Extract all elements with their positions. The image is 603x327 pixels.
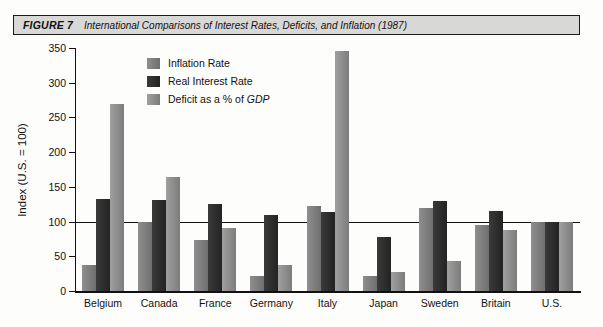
figure-label: FIGURE 7 [23,19,73,31]
y-tick-label: 250 [48,111,66,123]
figure-container: FIGURE 7 International Comparisons of In… [0,0,603,327]
bar [363,276,377,291]
bar-group [82,48,124,291]
y-tick-label: 50 [54,250,66,262]
legend-swatch-icon [147,58,160,69]
bar [377,237,391,291]
x-tick-label: Belgium [84,297,122,309]
bar [138,222,152,291]
bar [433,201,447,291]
bar [264,215,278,291]
bar [559,222,573,291]
bar [475,225,489,291]
legend-swatch-icon [147,94,160,105]
y-tick [69,256,75,257]
bar-group [531,48,573,291]
legend-item: Deficit as a % of GDP [147,91,270,107]
bar [250,276,264,291]
x-axis-line [75,291,581,293]
chart-legend: Inflation RateReal Interest RateDeficit … [147,55,270,109]
bar-group [307,48,349,291]
y-axis-title-text: Index (U.S. = 100) [16,123,28,217]
x-tick-label: France [199,297,232,309]
bar [110,104,124,291]
x-tick-label: Britain [481,297,511,309]
y-tick [69,48,75,49]
legend-item: Real Interest Rate [147,73,270,89]
bar [321,212,335,291]
bar [194,240,208,291]
legend-item: Inflation Rate [147,55,270,71]
x-tick-label: Japan [369,297,398,309]
bar [82,265,96,291]
bar [419,208,433,291]
y-axis-title: Index (U.S. = 100) [14,48,30,291]
figure-title-bar: FIGURE 7 International Comparisons of In… [13,15,580,35]
y-tick-label: 300 [48,77,66,89]
x-tick-label: Italy [318,297,337,309]
bar [503,230,517,291]
x-tick-label: Canada [141,297,178,309]
bar-group [475,48,517,291]
bar [278,265,292,291]
bar [166,177,180,291]
bar [489,211,503,291]
bar [391,272,405,291]
y-tick [69,222,75,223]
y-tick [69,152,75,153]
x-tick-label: Germany [250,297,293,309]
bar [96,199,110,291]
bar [531,222,545,291]
y-tick [69,291,75,292]
bar-group [363,48,405,291]
y-tick-label: 200 [48,146,66,158]
y-tick-label: 150 [48,181,66,193]
y-tick [69,83,75,84]
legend-label: Inflation Rate [168,57,230,69]
bar [208,204,222,291]
bar [222,228,236,291]
y-tick [69,117,75,118]
bar-group [419,48,461,291]
page-title: International Comparisons of Interest Ra… [84,20,407,31]
bar [335,51,349,291]
x-tick-label: U.S. [542,297,562,309]
bar [307,206,321,291]
x-tick-label: Sweden [421,297,459,309]
bar [152,200,166,291]
legend-label: Real Interest Rate [168,75,253,87]
bar [447,261,461,291]
bar [545,222,559,291]
y-tick-label: 0 [60,285,66,297]
y-tick [69,187,75,188]
legend-label: Deficit as a % of GDP [168,93,270,105]
legend-swatch-icon [147,76,160,87]
y-tick-label: 100 [48,216,66,228]
y-tick-label: 350 [48,42,66,54]
